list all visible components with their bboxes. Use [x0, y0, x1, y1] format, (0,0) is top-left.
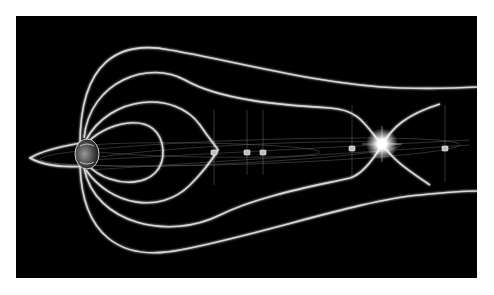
reconnection-flash-icon: [362, 126, 402, 162]
spacecraft-icon: [349, 146, 355, 151]
spacecraft-icon: [211, 150, 217, 155]
magnetosphere-diagram: [16, 16, 477, 278]
spacecraft-icon: [442, 146, 448, 151]
diagram-panel: [16, 16, 477, 278]
spacecraft-icon: [244, 150, 250, 155]
orbit-lines: [40, 133, 470, 172]
earth: [75, 139, 99, 169]
spacecraft-icon: [260, 150, 266, 155]
